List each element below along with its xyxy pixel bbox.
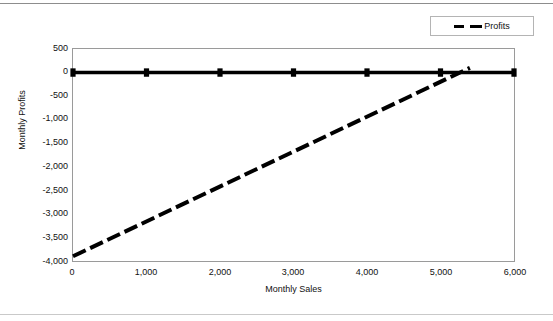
plot-svg — [73, 49, 514, 261]
page-bottom-rule — [0, 314, 553, 315]
data-point-marker — [438, 68, 443, 76]
page-top-rule — [0, 3, 553, 4]
data-point-marker — [144, 68, 149, 76]
legend-entry-profits[interactable]: Profits — [454, 21, 510, 31]
data-point-marker — [511, 68, 516, 76]
legend-dashed-line-icon — [454, 21, 482, 31]
x-tick-label: 5,000 — [416, 268, 466, 277]
x-tick-label: 3,000 — [268, 268, 318, 277]
data-point-marker — [291, 68, 296, 76]
x-tick-label: 4,000 — [342, 268, 392, 277]
x-axis-title: Monthly Sales — [72, 284, 515, 294]
legend-label-profits: Profits — [484, 21, 510, 31]
y-axis-title: Monthly Profits — [17, 76, 27, 164]
data-point-marker — [70, 68, 75, 76]
chart-page: Profits 500 0 -500 -1,000 -1,500 -2,000 … — [0, 0, 553, 321]
x-tick-label: 2,000 — [195, 268, 245, 277]
plot-area — [72, 48, 515, 262]
data-point-marker — [364, 68, 369, 76]
y-axis-tickmarks — [20, 48, 72, 262]
data-point-marker — [217, 68, 222, 76]
chart-legend[interactable]: Profits — [430, 16, 534, 36]
x-tick-label: 6,000 — [490, 268, 540, 277]
x-tick-label: 1,000 — [121, 268, 171, 277]
x-tick-label: 0 — [47, 268, 97, 277]
series-line-profits — [73, 68, 470, 256]
